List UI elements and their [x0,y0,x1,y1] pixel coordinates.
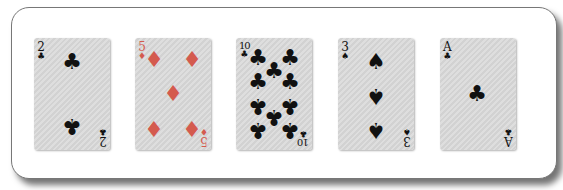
card-2-clubs[interactable]: 2♣ ♣ ♣ 2♣ [34,38,110,150]
card-3-spades[interactable]: 3♠ ♠ ♠ ♠ 3♠ [338,38,414,150]
card-index-top: A♣ [443,41,452,61]
card-index-bottom: A♣ [504,127,513,147]
card-index-top: 3♠ [341,41,349,61]
spade-icon: ♠ [366,51,386,73]
card-10-clubs[interactable]: 10♣ ♣ ♣ ♣ ♣ ♣ ♣ ♣ ♣ ♣ ♣ 10♣ [236,38,312,150]
club-icon: ♣ [62,115,82,137]
card-index-top: 2♣ [37,41,45,61]
club-icon: ♣ [300,129,308,138]
club-icon: ♣ [99,127,107,136]
club-icon: ♣ [248,71,268,93]
club-icon: ♣ [62,51,82,73]
spade-icon: ♠ [403,127,411,136]
spade-icon: ♠ [366,119,386,141]
club-icon: ♣ [443,52,451,61]
card-index-bottom: 2♣ [99,127,107,147]
spade-icon: ♠ [341,52,349,61]
club-icon: ♣ [248,119,268,141]
card-index-bottom: 10♣ [298,129,309,147]
diamond-icon: ♦ [182,117,202,139]
card-5-diamonds[interactable]: 5♦ ♦ ♦ ♦ ♦ ♦ 5♦ [135,38,211,150]
club-icon: ♣ [280,71,300,93]
spade-icon: ♠ [366,85,386,107]
diamond-icon: ♦ [144,49,164,71]
diamond-icon: ♦ [144,117,164,139]
diamond-icon: ♦ [200,127,208,136]
club-icon: ♣ [505,127,513,136]
card-index-bottom: 5♦ [200,127,208,147]
diamond-icon: ♦ [163,83,183,105]
diamond-icon: ♦ [182,49,202,71]
card-ace-clubs[interactable]: A♣ ♣ A♣ [440,38,516,150]
club-icon: ♣ [37,52,45,61]
card-index-bottom: 3♠ [403,127,411,147]
club-icon: ♣ [467,83,487,105]
